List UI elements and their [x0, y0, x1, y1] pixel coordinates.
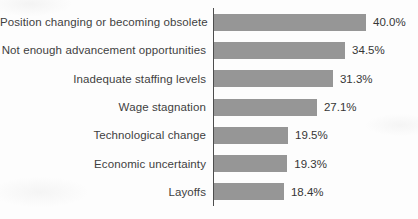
bar-row: Inadequate staffing levels 31.3% [0, 65, 418, 93]
bar-row: Position changing or becoming obsolete 4… [0, 8, 418, 36]
value-label: 40.0% [373, 16, 406, 28]
bar-area: 40.0% [213, 8, 418, 36]
value-label: 18.4% [291, 186, 324, 198]
bar-chart: Position changing or becoming obsolete 4… [0, 0, 418, 219]
bar-area: 27.1% [213, 93, 418, 121]
bar [214, 14, 366, 31]
category-label: Wage stagnation [0, 101, 213, 113]
value-label: 31.3% [340, 73, 373, 85]
bar [214, 155, 287, 172]
bar-row: Economic uncertainty 19.3% [0, 149, 418, 177]
bar-area: 19.5% [213, 121, 418, 149]
category-label: Technological change [0, 129, 213, 141]
value-label: 27.1% [324, 101, 357, 113]
bar-area: 19.3% [213, 149, 418, 177]
category-label: Not enough advancement opportunities [0, 44, 213, 56]
bar-area: 31.3% [213, 65, 418, 93]
bar-row: Not enough advancement opportunities 34.… [0, 36, 418, 64]
bar-area: 34.5% [213, 36, 418, 64]
bar [214, 99, 317, 116]
bar-row: Wage stagnation 27.1% [0, 93, 418, 121]
bar [214, 127, 288, 144]
category-label: Layoffs [0, 186, 213, 198]
bar-row: Layoffs 18.4% [0, 178, 418, 206]
chart-plot-area: Position changing or becoming obsolete 4… [0, 8, 418, 206]
bar [214, 42, 345, 59]
value-label: 19.5% [295, 129, 328, 141]
bar [214, 183, 284, 200]
value-label: 34.5% [352, 44, 385, 56]
bar-area: 18.4% [213, 178, 418, 206]
category-label: Economic uncertainty [0, 158, 213, 170]
category-label: Inadequate staffing levels [0, 73, 213, 85]
value-label: 19.3% [294, 158, 327, 170]
bar-row: Technological change 19.5% [0, 121, 418, 149]
category-label: Position changing or becoming obsolete [0, 16, 213, 28]
bar [214, 70, 333, 87]
